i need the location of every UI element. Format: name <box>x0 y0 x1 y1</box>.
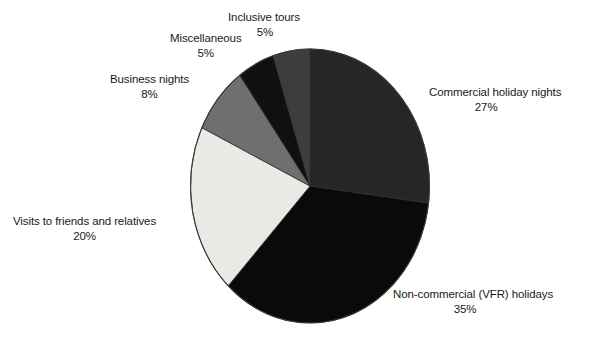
pie-label-commercial-holiday-nights-value: 27% <box>429 100 561 115</box>
pie-label-miscellaneous: Miscellaneous 5% <box>170 31 242 61</box>
pie-label-non-commercial-vfr-holidays-value: 35% <box>393 302 553 317</box>
pie-label-commercial-holiday-nights: Commercial holiday nights 27% <box>429 85 561 115</box>
pie-slice-commercial-holiday-nights[interactable] <box>310 49 430 203</box>
pie-chart-figure: Inclusive tours 5% Miscellaneous 5% Busi… <box>0 0 593 341</box>
pie-label-miscellaneous-name: Miscellaneous <box>170 31 242 46</box>
pie-label-non-commercial-vfr-holidays-name: Non-commercial (VFR) holidays <box>393 287 553 302</box>
pie-label-visits-to-friends-and-relatives-name: Visits to friends and relatives <box>13 214 156 229</box>
pie-label-miscellaneous-value: 5% <box>170 46 242 61</box>
pie-label-non-commercial-vfr-holidays: Non-commercial (VFR) holidays 35% <box>393 287 553 317</box>
pie-label-business-nights-name: Business nights <box>110 72 189 87</box>
pie-label-commercial-holiday-nights-name: Commercial holiday nights <box>429 85 561 100</box>
pie-label-business-nights: Business nights 8% <box>110 72 189 102</box>
pie-label-business-nights-value: 8% <box>110 87 189 102</box>
pie-slice-group <box>190 49 429 323</box>
pie-label-visits-to-friends-and-relatives-value: 20% <box>13 229 156 244</box>
pie-label-visits-to-friends-and-relatives: Visits to friends and relatives 20% <box>13 214 156 244</box>
pie-label-inclusive-tours-name: Inclusive tours <box>228 10 300 25</box>
